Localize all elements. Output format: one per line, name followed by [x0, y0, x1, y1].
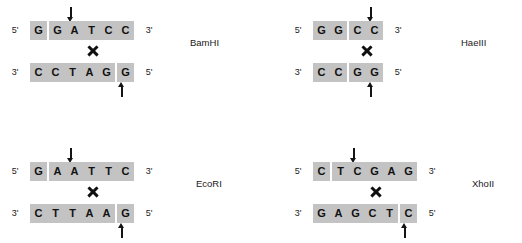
base: T — [64, 63, 81, 82]
base: G — [30, 21, 47, 40]
base: A — [98, 204, 115, 223]
base: A — [66, 162, 83, 181]
strand-end-5prime-top: 5' — [7, 21, 23, 40]
base: A — [81, 63, 98, 82]
base: T — [83, 21, 100, 40]
scissors-x-icon-haeiii — [360, 44, 373, 57]
seq-block: G — [30, 162, 47, 181]
enzyme-label-haeiii: HaeIII — [461, 37, 486, 48]
seq-block: G A T C C — [49, 21, 134, 40]
base: C — [349, 162, 366, 181]
cut-arrow-top-xhoii — [349, 148, 358, 163]
strand-end-3prime-top: 3' — [141, 162, 157, 181]
cut-arrow-top-bamhi — [66, 7, 75, 22]
sequence-bottom: C T T A A G — [30, 204, 134, 223]
base: A — [81, 204, 98, 223]
strand-end-3prime-top: 3' — [141, 21, 157, 40]
enzyme-label-ecori: EcoRI — [196, 178, 222, 189]
bottom-strand-ecori: 3' C T T A A G 5' — [7, 204, 157, 223]
strand-end-3prime-top: 3' — [390, 21, 406, 40]
base: C — [30, 63, 47, 82]
strand-end-3prime-bottom: 3' — [7, 204, 23, 223]
base: G — [313, 204, 330, 223]
sequence-bottom: C C T A G G — [30, 63, 134, 82]
seq-block: C C — [349, 21, 383, 40]
seq-block: A A T T C — [49, 162, 134, 181]
base: G — [349, 63, 366, 82]
panel-xhoii: 5' C T C G A G 3' — [261, 122, 522, 243]
base: C — [400, 204, 417, 223]
enzyme-label-bamhi: BamHI — [190, 37, 219, 48]
base: C — [313, 63, 330, 82]
sequence-top: G A A T T C — [30, 162, 134, 181]
base: C — [117, 21, 134, 40]
base: C — [349, 21, 366, 40]
base: G — [366, 162, 383, 181]
base: T — [381, 204, 398, 223]
top-strand-ecori: 5' G A A T T C 3' — [7, 162, 157, 181]
base: A — [383, 162, 400, 181]
restriction-enzyme-figure: 5' G G A T C C 3' — [0, 0, 522, 243]
bottom-strand-xhoii: 3' G A G C T C 5' — [290, 204, 440, 223]
bottom-strand-haeiii: 3' C C G G 5' — [290, 63, 406, 82]
base: T — [64, 204, 81, 223]
cut-arrow-top-haeiii — [366, 7, 375, 22]
seq-block: C C T A G — [30, 63, 115, 82]
sequence-top: G G C C — [313, 21, 383, 40]
scissors-x-icon-bamhi — [86, 44, 99, 57]
base: G — [330, 21, 347, 40]
base: G — [117, 63, 134, 82]
base: T — [332, 162, 349, 181]
seq-block: T C G A G — [332, 162, 417, 181]
top-strand-bamhi: 5' G G A T C C 3' — [7, 21, 157, 40]
scissors-x-icon-ecori — [86, 185, 99, 198]
strand-end-5prime-bottom: 5' — [424, 204, 440, 223]
cut-arrow-bottom-haeiii — [366, 82, 375, 97]
strand-end-5prime-top: 5' — [7, 162, 23, 181]
strand-end-5prime-top: 5' — [290, 162, 306, 181]
base: A — [330, 204, 347, 223]
base: G — [400, 162, 417, 181]
base: A — [49, 162, 66, 181]
seq-block: G A G C T — [313, 204, 398, 223]
seq-block: C — [313, 162, 330, 181]
strand-end-5prime-bottom: 5' — [141, 63, 157, 82]
seq-block: C T T A A — [30, 204, 115, 223]
base: G — [30, 162, 47, 181]
base: G — [49, 21, 66, 40]
base: C — [330, 63, 347, 82]
panel-ecori: 5' G A A T T C 3' — [0, 122, 261, 243]
cut-arrow-top-ecori — [66, 148, 75, 163]
seq-block: G — [117, 63, 134, 82]
panel-bamhi: 5' G G A T C C 3' — [0, 0, 261, 121]
seq-block: G G — [313, 21, 347, 40]
base: C — [364, 204, 381, 223]
seq-block: C C — [313, 63, 347, 82]
base: G — [98, 63, 115, 82]
cut-arrow-bottom-ecori — [117, 223, 126, 238]
base: C — [47, 63, 64, 82]
top-strand-xhoii: 5' C T C G A G 3' — [290, 162, 440, 181]
seq-block: C — [400, 204, 417, 223]
sequence-top: C T C G A G — [313, 162, 417, 181]
base: G — [366, 63, 383, 82]
sequence-top: G G A T C C — [30, 21, 134, 40]
strand-end-5prime-bottom: 5' — [390, 63, 406, 82]
base: T — [83, 162, 100, 181]
base: A — [66, 21, 83, 40]
strand-end-3prime-bottom: 3' — [290, 63, 306, 82]
seq-block: G — [30, 21, 47, 40]
base: C — [30, 204, 47, 223]
top-strand-haeiii: 5' G G C C 3' — [290, 21, 406, 40]
strand-end-3prime-bottom: 3' — [7, 63, 23, 82]
panel-haeiii: 5' G G C C 3' 3' — [261, 0, 522, 121]
base: C — [100, 21, 117, 40]
strand-end-5prime-top: 5' — [290, 21, 306, 40]
base: G — [347, 204, 364, 223]
base: G — [117, 204, 134, 223]
cut-arrow-bottom-xhoii — [400, 223, 409, 238]
strand-end-3prime-bottom: 3' — [290, 204, 306, 223]
bottom-strand-bamhi: 3' C C T A G G 5' — [7, 63, 157, 82]
base: C — [117, 162, 134, 181]
sequence-bottom: C C G G — [313, 63, 383, 82]
